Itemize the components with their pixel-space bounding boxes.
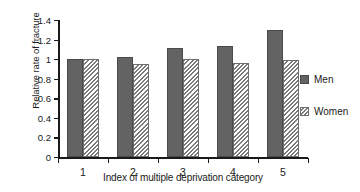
x-tick [308,158,309,163]
bar-men-category-2 [117,57,133,157]
x-tick [258,158,259,163]
x-tick [158,158,159,163]
y-tick-label: 1 [46,54,51,65]
chart-legend: Men Women [300,74,348,138]
y-tick: 1.2 [54,40,58,41]
y-tick: 0.2 [54,137,58,138]
bar-women-category-2 [133,64,149,157]
x-tick [58,158,59,163]
y-tick: 1 [54,59,58,60]
bar-men-category-5 [267,30,283,157]
legend-swatch-women-icon [300,107,309,116]
fracture-rate-bar-chart: Relative rate of fracture 00.20.40.60.81… [0,0,360,192]
bar-women-category-3 [183,59,199,157]
x-axis-title: Index of multiple deprivation category [58,172,308,183]
y-tick-label: 1.2 [38,34,51,45]
plot-area: 00.20.40.60.811.21.4 12345 [58,20,308,157]
legend-item-women: Women [300,106,348,117]
y-tick: 0.8 [54,79,58,80]
y-tick-label: 1.4 [38,15,51,26]
bar-women-category-5 [283,60,299,157]
y-tick-label: 0.2 [38,132,51,143]
legend-label-men: Men [314,74,333,85]
y-tick-label: 0.8 [38,73,51,84]
legend-item-men: Men [300,74,348,85]
x-tick [208,158,209,163]
y-tick: 1.4 [54,20,58,21]
y-tick: 0.4 [54,118,58,119]
y-tick: 0.6 [54,98,58,99]
bar-men-category-4 [217,46,233,157]
bar-men-category-1 [67,59,83,157]
y-tick-label: 0 [46,152,51,163]
bar-women-category-4 [233,63,249,157]
y-tick-label: 0.4 [38,112,51,123]
legend-swatch-men-icon [300,75,309,84]
legend-label-women: Women [314,106,348,117]
y-tick-label: 0.6 [38,93,51,104]
bar-men-category-3 [167,48,183,157]
x-axis-line [58,157,308,159]
y-axis-line [58,20,60,157]
bar-women-category-1 [83,59,99,157]
x-tick [108,158,109,163]
